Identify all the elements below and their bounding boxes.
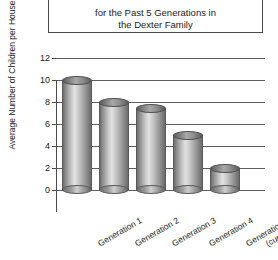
bar-top-ellipse: [210, 164, 240, 173]
ytick-label-6: 6: [45, 119, 50, 129]
ytick-label-8: 8: [45, 97, 50, 107]
bar-top-ellipse: [136, 104, 166, 113]
chart-title-box: for the Past 5 Generations in the Dexter…: [48, 0, 263, 33]
bar-generation-1[interactable]: [62, 80, 92, 190]
ytick-label-10: 10: [40, 75, 50, 85]
y-axis-title: Average Number of Children per Household: [7, 0, 17, 151]
bar-base-ellipse: [173, 185, 203, 194]
ytick-label-2: 2: [45, 163, 50, 173]
bar-top-ellipse: [173, 131, 203, 140]
bar-base-ellipse: [210, 185, 240, 194]
bar-top-ellipse: [99, 98, 129, 107]
bar-base-ellipse: [62, 185, 92, 194]
ytick-label-12: 12: [40, 53, 50, 63]
bar-base-ellipse: [99, 185, 129, 194]
bar-generation-2[interactable]: [99, 102, 129, 190]
chart-container: for the Past 5 Generations in the Dexter…: [0, 0, 278, 260]
ytick-label-0: 0: [45, 185, 50, 195]
bar-generation-3[interactable]: [136, 108, 166, 191]
bar-generation-4[interactable]: [173, 135, 203, 190]
gridline-12: [56, 58, 265, 59]
bar-top-ellipse: [62, 76, 92, 85]
ytick-label-4: 4: [45, 141, 50, 151]
chart-title-line-2: the Dexter Family: [118, 19, 192, 31]
chart-title-line-1: for the Past 5 Generations in: [95, 7, 216, 19]
plot-area: 12 10 8 6 4 2 0: [56, 80, 265, 212]
bar-base-ellipse: [136, 185, 166, 194]
bar-generation-5[interactable]: [210, 168, 240, 190]
